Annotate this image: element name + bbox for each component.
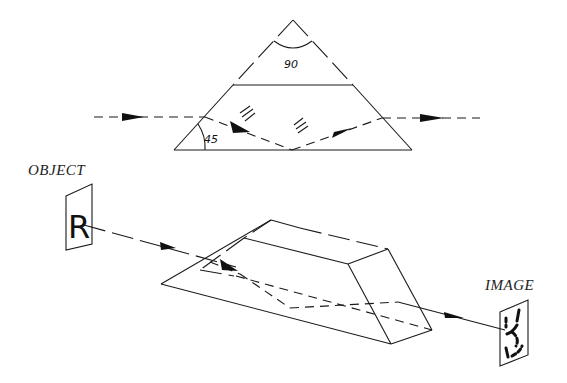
refracted-ray-down xyxy=(205,117,292,150)
object-letter: R xyxy=(68,208,90,246)
phantom-left-edge xyxy=(233,20,293,85)
prism-edge-left-top xyxy=(161,220,271,284)
glass-hatch-marks xyxy=(240,106,308,133)
arrow-icon xyxy=(122,113,144,121)
phantom-right-edge xyxy=(293,20,353,85)
base-angle-label: 45 xyxy=(204,133,218,146)
ray-down xyxy=(240,274,290,308)
prism-edge-top-back xyxy=(271,220,300,228)
arrow-icon xyxy=(160,242,176,250)
ray-reflected xyxy=(290,302,398,308)
inverted-r-glyph xyxy=(506,310,522,357)
prism-end-bottom xyxy=(391,330,432,344)
arrow-icon xyxy=(230,121,250,133)
prism-edge-bottom-front xyxy=(161,284,391,344)
prism-edge-top-front xyxy=(244,238,348,264)
arrow-icon xyxy=(220,259,238,271)
hidden-edge-ridge xyxy=(244,220,271,238)
hidden-edge-inner xyxy=(200,270,234,276)
prism-end-back xyxy=(388,249,432,330)
prism-end-top xyxy=(348,249,388,264)
image-label: IMAGE xyxy=(484,277,534,293)
hidden-edge-top-back xyxy=(300,228,388,249)
arrow-icon xyxy=(444,312,464,318)
arrow-icon xyxy=(332,128,352,138)
dove-prism-diagram: 90 45 OBJECT R xyxy=(0,0,567,383)
prism-cross-section: 90 45 xyxy=(94,20,480,150)
arrow-icon xyxy=(420,114,444,122)
object-label: OBJECT xyxy=(28,162,86,178)
apex-angle-arc xyxy=(274,41,312,48)
apex-angle-label: 90 xyxy=(284,58,298,71)
prism-3d-view: OBJECT R IMAGE xyxy=(28,162,534,366)
